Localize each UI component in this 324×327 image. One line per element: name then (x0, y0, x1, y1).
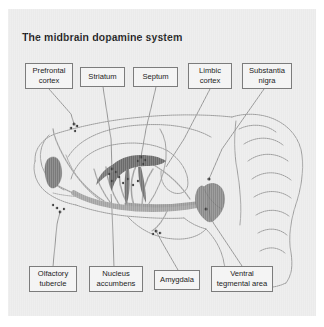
label-line-2: accumbens (97, 279, 136, 289)
label-line-1: Septum (142, 72, 168, 82)
label-substantia-nigra[interactable]: Substantia nigra (242, 63, 292, 89)
label-line-1: Limbic (199, 66, 221, 76)
label-olfactory-tubercle[interactable]: Olfactory tubercle (29, 266, 77, 292)
figure-panel: The midbrain dopamine system (8, 9, 316, 316)
label-line-1: Amygdala (160, 275, 194, 285)
label-septum[interactable]: Septum (133, 67, 178, 87)
label-line-1: Substantia (249, 66, 285, 76)
terminal-dots (52, 123, 211, 236)
label-line-2: cortex (33, 76, 66, 86)
label-line-1: Olfactory (38, 269, 68, 279)
label-line-1: Prefrontal (33, 66, 66, 76)
label-line-2: nigra (249, 76, 285, 86)
label-line-1: Nucleus (97, 269, 136, 279)
label-limbic-cortex[interactable]: Limbic cortex (188, 63, 232, 89)
label-line-1: Ventral (217, 269, 268, 279)
brain-outline (34, 114, 303, 288)
label-striatum[interactable]: Striatum (80, 67, 125, 87)
label-line-2: tubercle (38, 279, 68, 289)
label-amygdala[interactable]: Amygdala (154, 270, 200, 290)
label-ventral-tegmental-area[interactable]: Ventral tegmental area (211, 266, 273, 292)
nuclei (45, 155, 225, 222)
olfactory-nucleus (45, 157, 62, 188)
label-prefrontal-cortex[interactable]: Prefrontal cortex (25, 63, 73, 89)
label-line-1: Striatum (88, 72, 116, 82)
label-line-2: tegmental area (217, 279, 268, 289)
label-line-2: cortex (199, 76, 221, 86)
leader-lines-top (49, 87, 264, 179)
label-nucleus-accumbens[interactable]: Nucleus accumbens (89, 266, 143, 292)
